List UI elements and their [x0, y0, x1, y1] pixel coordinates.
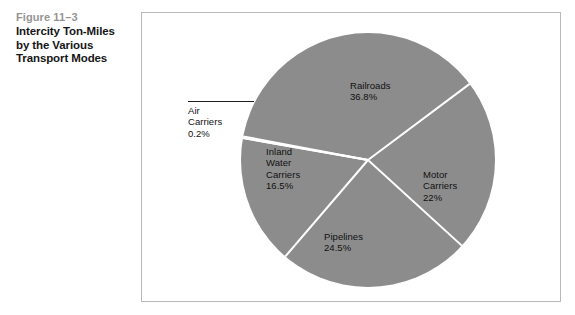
- pie-label-air-carriers-name-1: Air: [188, 105, 222, 116]
- pie-label-air-carriers-value: 0.2%: [188, 128, 222, 139]
- pie-label-motor-carriers-name-1: Motor: [423, 169, 457, 180]
- pie-label-pipelines-value: 24.5%: [324, 242, 363, 253]
- pie-label-motor-carriers: Motor Carriers 22%: [423, 169, 457, 203]
- pie-label-inland-water-carriers-name-3: Carriers: [266, 169, 300, 180]
- pie-label-railroads-name: Railroads: [350, 80, 391, 91]
- pie-label-motor-carriers-name-2: Carriers: [423, 180, 457, 191]
- pie-label-inland-water-carriers-name-1: Inland: [266, 146, 300, 157]
- pie-label-inland-water-carriers: Inland Water Carriers 16.5%: [266, 146, 300, 192]
- pie-label-pipelines-name: Pipelines: [324, 231, 363, 242]
- pie-label-motor-carriers-value: 22%: [423, 192, 457, 203]
- pie-label-railroads: Railroads 36.8%: [350, 80, 391, 103]
- air-carriers-leader-line: [188, 101, 254, 102]
- pie-label-air-carriers: Air Carriers 0.2%: [188, 105, 222, 139]
- pie-label-railroads-value: 36.8%: [350, 91, 391, 102]
- pie-label-pipelines: Pipelines 24.5%: [324, 231, 363, 254]
- pie-label-air-carriers-name-2: Carriers: [188, 116, 222, 127]
- pie-label-inland-water-carriers-value: 16.5%: [266, 180, 300, 191]
- pie-label-inland-water-carriers-name-2: Water: [266, 157, 300, 168]
